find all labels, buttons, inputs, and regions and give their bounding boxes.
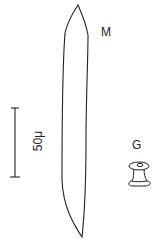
figure-canvas [0, 0, 156, 242]
spicule-g-label: G [132, 139, 141, 151]
scale-bar [10, 108, 20, 177]
spicule-g-drawing [129, 162, 150, 186]
spicule-m-outline [62, 5, 88, 237]
scale-bar-label: 50μ [31, 126, 45, 156]
spicule-m-label: M [101, 26, 111, 38]
